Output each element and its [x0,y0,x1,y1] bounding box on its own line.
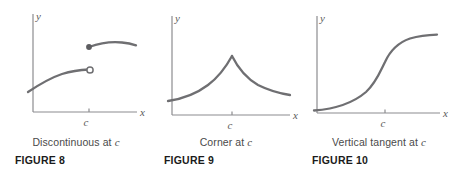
x-axis-label: x [292,109,298,121]
figure-sheet: y x c Discontinuous at c FIGURE 8 y x c [0,0,458,174]
caption-text: Corner at [200,136,248,148]
closed-circle-marker [86,44,92,50]
curve-left-branch [28,70,89,93]
figure-number-label: FIGURE 10 [312,154,368,166]
tick-label-c: c [228,119,233,131]
figure-number-label: FIGURE 8 [15,154,65,166]
figure-caption: Vertical tangent at c [300,136,458,148]
figure-caption: Discontinuous at c [0,136,152,148]
plot-vertical-tangent: y x c [300,0,458,134]
x-axis-label: x [442,107,448,119]
figure-panel-vertical-tangent: y x c Vertical tangent at c FIGURE 10 [300,0,458,174]
plot-corner: y x c [152,0,300,134]
caption-variable: c [421,136,426,148]
caption-text: Discontinuous at [32,136,114,148]
curve-falling-branch [232,56,290,95]
figure-number-label: FIGURE 9 [164,154,214,166]
figure-panel-discontinuous: y x c Discontinuous at c FIGURE 8 [0,0,152,174]
curve-right-branch [89,42,136,47]
curve-s-shape [314,35,437,111]
curve-rising-branch [168,56,232,101]
x-axis-label: x [139,106,145,118]
plot-discontinuous: y x c [0,0,152,134]
caption-variable: c [247,136,252,148]
tick-label-c: c [84,116,89,128]
figure-caption: Corner at c [152,136,300,148]
y-axis-label: y [174,12,180,24]
figure-panel-corner: y x c Corner at c FIGURE 9 [152,0,300,174]
y-axis-label: y [319,12,325,24]
caption-variable: c [115,136,120,148]
caption-text: Vertical tangent at [332,136,421,148]
y-axis-label: y [35,10,41,22]
open-circle-marker [87,67,93,73]
tick-label-c: c [381,117,386,129]
